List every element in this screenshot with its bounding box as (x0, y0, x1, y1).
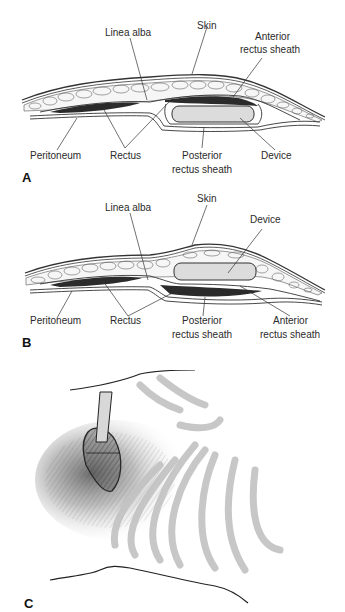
label-peritoneum: Peritoneum (30, 314, 81, 328)
panel-letter-a: A (22, 170, 31, 185)
panel-c: C (0, 370, 345, 612)
panel-c-chest-wall-illustration (0, 370, 345, 612)
label-posterior-rectus-sheath-line2: rectus sheath (172, 328, 232, 342)
label-anterior-rectus-sheath-line2: rectus sheath (260, 328, 320, 342)
label-peritoneum: Peritoneum (30, 149, 81, 163)
label-linea-alba: Linea alba (105, 201, 151, 215)
label-skin: Skin (197, 19, 216, 33)
label-linea-alba: Linea alba (105, 26, 151, 40)
label-anterior-rectus-sheath-line1: Anterior (255, 30, 290, 44)
panel-letter-b: B (22, 335, 31, 350)
label-device: Device (261, 149, 292, 163)
label-skin: Skin (197, 192, 216, 206)
label-anterior-rectus-sheath-line2: rectus sheath (240, 43, 300, 57)
label-posterior-rectus-sheath-line1: Posterior (182, 314, 222, 328)
panel-b: Linea alba Skin Device Peritoneum Rectus… (0, 185, 345, 350)
panel-a: Linea alba Skin Anterior rectus sheath P… (0, 0, 345, 185)
label-rectus: Rectus (110, 314, 141, 328)
label-device: Device (250, 213, 281, 227)
label-anterior-rectus-sheath-line1: Anterior (273, 314, 308, 328)
label-rectus: Rectus (110, 149, 141, 163)
label-posterior-rectus-sheath-line2: rectus sheath (172, 163, 232, 177)
label-posterior-rectus-sheath-line1: Posterior (182, 149, 222, 163)
panel-letter-c: C (24, 596, 33, 611)
